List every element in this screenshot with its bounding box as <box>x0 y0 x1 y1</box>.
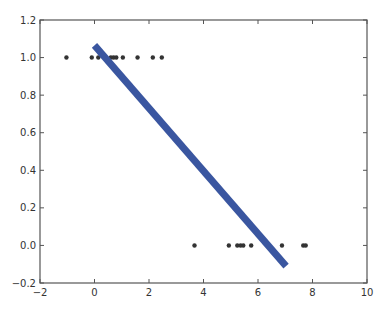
x-tick-label: 4 <box>200 287 206 298</box>
y-tick-label: 0.6 <box>20 127 36 138</box>
data-point <box>160 55 164 59</box>
y-tick-label: −0.2 <box>12 278 36 289</box>
data-point <box>249 243 253 247</box>
y-tick-label: 1.2 <box>20 15 36 26</box>
y-tick-label: 0.4 <box>20 165 36 176</box>
data-point <box>135 55 139 59</box>
data-point <box>151 55 155 59</box>
data-point <box>64 55 68 59</box>
data-point <box>227 243 231 247</box>
x-tick-label: 10 <box>361 287 374 298</box>
x-tick-label: −2 <box>33 287 48 298</box>
y-tick-label: 0.2 <box>20 202 36 213</box>
y-tick-label: 1.0 <box>20 52 36 63</box>
y-tick-label: 0.8 <box>20 90 36 101</box>
scatter-chart: −20246810 −0.20.00.20.40.60.81.01.2 <box>0 0 389 309</box>
plot-area <box>40 20 367 283</box>
data-point <box>241 243 245 247</box>
data-point <box>90 55 94 59</box>
data-point <box>114 55 118 59</box>
x-tick-label: 8 <box>309 287 315 298</box>
data-point <box>192 243 196 247</box>
x-tick-label: 2 <box>146 287 152 298</box>
x-tick-label: 6 <box>255 287 261 298</box>
x-tick-label: 0 <box>91 287 97 298</box>
data-point <box>303 243 307 247</box>
data-point <box>121 55 125 59</box>
y-tick-label: 0.0 <box>20 240 36 251</box>
data-point <box>280 243 284 247</box>
